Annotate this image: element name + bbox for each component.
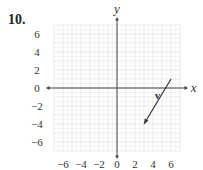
svg-text:2: 2 — [132, 158, 138, 170]
svg-text:2: 2 — [34, 64, 40, 76]
svg-text:−2: −2 — [93, 158, 105, 170]
svg-text:6: 6 — [168, 158, 174, 170]
svg-text:x: x — [190, 80, 197, 95]
svg-text:6: 6 — [34, 28, 40, 40]
svg-text:−4: −4 — [75, 158, 87, 170]
coordinate-plane: xy −6−4−202466420−2−4−6 v — [0, 0, 203, 170]
svg-text:−6: −6 — [31, 136, 43, 148]
svg-text:4: 4 — [150, 158, 156, 170]
svg-text:v: v — [155, 89, 161, 101]
svg-text:−4: −4 — [31, 118, 43, 130]
svg-text:0: 0 — [34, 82, 40, 94]
svg-text:y: y — [112, 1, 120, 16]
svg-text:−2: −2 — [31, 100, 43, 112]
svg-text:0: 0 — [114, 158, 120, 170]
svg-text:4: 4 — [34, 46, 40, 58]
svg-text:−6: −6 — [57, 158, 69, 170]
